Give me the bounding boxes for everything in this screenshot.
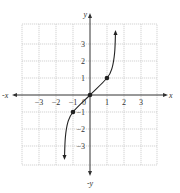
marked-point xyxy=(88,93,93,98)
curve-start-arrow-icon xyxy=(63,155,67,160)
function-graph: −3−2−1123321−1−2−3 x -x y -y 0 xyxy=(0,0,180,193)
neg-x-axis-label: -x xyxy=(2,91,9,100)
x-tick-label: −3 xyxy=(35,98,44,107)
y-tick-label: 2 xyxy=(81,57,85,66)
x-tick-label: −2 xyxy=(52,98,61,107)
y-tick-label: −3 xyxy=(76,142,85,151)
y-axis-arrow-icon xyxy=(88,13,92,18)
x-tick-label: 2 xyxy=(122,98,126,107)
x-tick-label: −1 xyxy=(69,98,78,107)
x-tick-label: 3 xyxy=(139,98,143,107)
x-tick-label: 1 xyxy=(105,98,109,107)
neg-y-axis-label: -y xyxy=(87,179,94,188)
y-tick-label: −1 xyxy=(76,108,85,117)
marked-point xyxy=(105,76,110,81)
curve-end-arrow-icon xyxy=(114,30,118,35)
origin-label: 0 xyxy=(82,98,86,107)
x-axis-arrow-icon xyxy=(163,93,168,97)
y-tick-label: −2 xyxy=(76,125,85,134)
y-tick-label: 3 xyxy=(81,40,85,49)
x-axis-label: x xyxy=(168,91,173,100)
neg-y-axis-arrow-icon xyxy=(88,171,92,176)
y-tick-label: 1 xyxy=(81,74,85,83)
neg-x-axis-arrow-icon xyxy=(12,93,17,97)
y-axis-label: y xyxy=(82,10,87,19)
marked-point xyxy=(71,110,76,115)
